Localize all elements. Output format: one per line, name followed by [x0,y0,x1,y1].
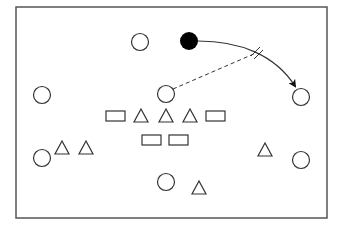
rectangle-icon [206,111,225,121]
dashed-line [173,53,256,89]
pass-arrow [198,41,295,86]
rectangle-icon [169,135,188,145]
open-circle-icon [293,89,310,106]
open-circle-icon [158,174,175,191]
triangle-icon [55,141,69,154]
rectangle-icon [106,111,125,121]
open-circle-icon [34,150,51,167]
triangle-icon [79,141,93,154]
triangle-icon [258,143,272,156]
open-circle-icon [158,86,175,103]
rectangle-icon [142,135,161,145]
open-circle-icon [34,87,51,104]
filled-circle-icon [180,32,198,50]
triangle-icon [159,109,173,122]
open-circle-icon [132,34,149,51]
open-circle-icon [293,152,310,169]
play-diagram [0,0,343,230]
triangle-icon [192,181,206,194]
triangle-icon [183,109,197,122]
triangle-icon [134,109,148,122]
